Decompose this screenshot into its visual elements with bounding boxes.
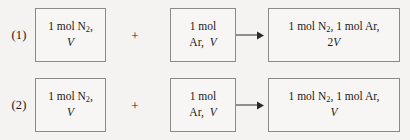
product-box-2: 1 mol N2, 1 mol Ar, V xyxy=(268,78,400,132)
reactant-a-comma-2: , xyxy=(90,90,93,102)
row-label-1: (1) xyxy=(4,28,34,43)
reactant-a-volume-1: V xyxy=(63,35,78,51)
arrow-head-1 xyxy=(257,31,264,39)
reactant-a-comma-1: , xyxy=(90,20,93,32)
product-volume-1: 2V xyxy=(324,35,345,51)
right-arrow-icon-2 xyxy=(236,101,264,110)
reactant-b-line2-1: Ar, V xyxy=(185,35,220,51)
reactant-b-volume-1: V xyxy=(210,36,217,48)
reactant-box-nitrogen-1: 1 mol N2, V xyxy=(35,8,106,62)
reactant-a-label-2: 1 mol N xyxy=(48,90,86,102)
plus-operator-1: + xyxy=(127,29,143,42)
reactant-box-argon-1: 1 mol Ar, V xyxy=(170,8,236,62)
product-volume-2: V xyxy=(326,105,341,121)
product-volume-var-2: V xyxy=(330,106,337,118)
product-box-1: 1 mol N2, 1 mol Ar, 2V xyxy=(268,8,400,62)
reactant-a-line1-2: 1 mol N2, xyxy=(44,89,97,105)
right-arrow-icon-1 xyxy=(236,31,264,40)
reactant-a-label-1: 1 mol N xyxy=(48,20,86,32)
reactant-b-line2-2: Ar, V xyxy=(185,105,220,121)
reactant-box-nitrogen-2: 1 mol N2, V xyxy=(35,78,106,132)
product-volume-var-1: V xyxy=(333,36,340,48)
equation-row-2: (2) 1 mol N2, V + 1 mol Ar, V 1 mol N2, … xyxy=(0,70,410,140)
arrow-head-2 xyxy=(257,101,264,109)
reactant-a-volume-2: V xyxy=(63,105,78,121)
gas-mixing-diagram: (1) 1 mol N2, V + 1 mol Ar, V 1 mol N2, … xyxy=(0,0,410,140)
reactant-b-line1-1: 1 mol xyxy=(186,19,221,35)
product-species-a-1: 1 mol N xyxy=(289,20,327,32)
reactant-a-line1-1: 1 mol N2, xyxy=(44,19,97,35)
reactant-b-species-1: Ar, xyxy=(189,36,204,48)
reactant-box-argon-2: 1 mol Ar, V xyxy=(170,78,236,132)
product-line1-1: 1 mol N2, 1 mol Ar, xyxy=(285,19,384,35)
equation-row-1: (1) 1 mol N2, V + 1 mol Ar, V 1 mol N2, … xyxy=(0,0,410,70)
product-species-a-2: 1 mol N xyxy=(289,90,327,102)
reactant-b-line1-2: 1 mol xyxy=(186,89,221,105)
product-species-b-1: , 1 mol Ar, xyxy=(330,20,379,32)
product-species-b-2: , 1 mol Ar, xyxy=(330,90,379,102)
plus-operator-2: + xyxy=(127,99,143,112)
reactant-b-species-2: Ar, xyxy=(189,106,204,118)
reactant-b-volume-2: V xyxy=(210,106,217,118)
product-line1-2: 1 mol N2, 1 mol Ar, xyxy=(285,89,384,105)
row-label-2: (2) xyxy=(4,98,34,113)
